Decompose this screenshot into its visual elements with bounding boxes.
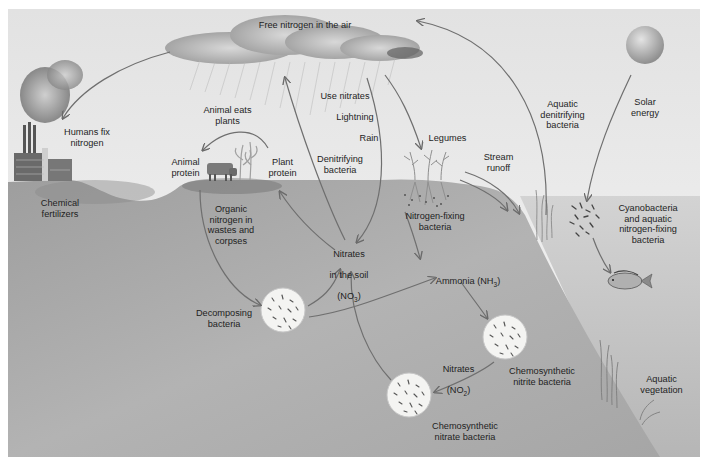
nitrogen-cycle-diagram: Free nitrogen in the air Humans fix nitr… (0, 0, 706, 465)
label-humans-fix-nitrogen: Humans fix nitrogen (52, 127, 122, 148)
sun-icon (626, 26, 664, 64)
nitrates-soil-line1: Nitrates (333, 249, 365, 259)
label-legumes: Legumes (425, 133, 470, 144)
label-nitrogen-fixing: Nitrogen-fixing bacteria (395, 211, 475, 232)
label-animal-eats-plants: Animal eats plants (195, 105, 260, 126)
label-lightning: Lightning (330, 112, 380, 123)
label-ammonia: Ammonia (NH3) (428, 265, 508, 290)
label-nitrates-in-soil: Nitrates in the soil (NO3) (318, 238, 380, 305)
nitrates-no2-close: ) (467, 385, 470, 395)
label-solar-energy: Solar energy (620, 97, 670, 118)
label-nitrates-no2: Nitrates (NO2) (436, 353, 481, 399)
ammonia-close: ) (497, 276, 500, 286)
label-use-nitrates: Use nitrates (310, 91, 380, 102)
nitrates-soil-formula: (NO (337, 291, 354, 301)
label-chemosynthetic-nitrite: Chemosynthetic nitrite bacteria (502, 366, 582, 387)
label-stream-runoff: Stream runoff (476, 152, 521, 173)
nitrates-no2-formula: (NO (447, 385, 464, 395)
nitrate-bacteria-disc (387, 373, 431, 417)
label-chemical-fertilizers: Chemical fertilizers (30, 198, 90, 219)
label-organic-nitrogen: Organic nitrogen in wastes and corpses (200, 204, 262, 246)
label-aquatic-denitrifying: Aquatic denitrifying bacteria (530, 99, 595, 131)
nitrates-no2-line1: Nitrates (443, 364, 475, 374)
nitrates-soil-close: ) (358, 291, 361, 301)
label-animal-protein: Animal protein (163, 157, 208, 178)
decomposing-bacteria-disc (261, 288, 305, 332)
label-aquatic-vegetation: Aquatic vegetation (634, 374, 689, 395)
nitrates-soil-line2: in the soil (330, 270, 369, 280)
label-denitrifying-bacteria: Denitrifying bacteria (310, 154, 370, 175)
label-plant-protein: Plant protein (260, 157, 305, 178)
label-decomposing-bacteria: Decomposing bacteria (193, 308, 255, 329)
label-free-nitrogen: Free nitrogen in the air (245, 20, 365, 31)
label-chemosynthetic-nitrate: Chemosynthetic nitrate bacteria (425, 421, 505, 442)
ammonia-text: Ammonia (NH (436, 276, 494, 286)
label-cyanobacteria: Cyanobacteria and aquatic nitrogen-fixin… (608, 203, 688, 245)
diagram-graphics (0, 0, 706, 465)
label-rain: Rain (354, 133, 384, 144)
nitrite-bacteria-disc (483, 315, 527, 359)
